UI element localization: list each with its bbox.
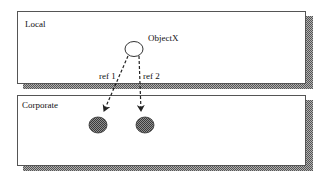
- zone-corporate-box: [18, 96, 306, 166]
- node-target1: [89, 117, 107, 133]
- object-circle-icon: [125, 42, 143, 57]
- zone-corporate: Corporate: [18, 96, 314, 172]
- zone-local-label: Local: [25, 19, 46, 29]
- node-target2: [136, 117, 154, 133]
- node-objectx-label: ObjectX: [148, 33, 179, 43]
- zone-local: Local: [18, 12, 314, 90]
- zone-local-box: [18, 12, 306, 84]
- diagram-canvas: Local Corporate ObjectX ref 1 ref 2: [0, 0, 327, 180]
- edge-ref1-label: ref 1: [99, 71, 116, 81]
- edge-ref2-label: ref 2: [143, 71, 160, 81]
- zone-corporate-label: Corporate: [22, 100, 58, 110]
